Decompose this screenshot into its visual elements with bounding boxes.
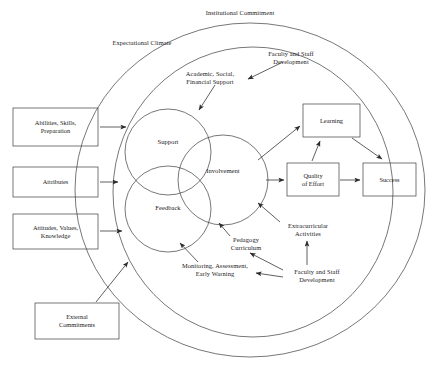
arrow-academic-support-to-support-circle bbox=[199, 85, 215, 110]
annotation-faculty-dev-bottom: Faculty and Staff Development bbox=[274, 268, 360, 283]
arrow-learning-to-success bbox=[352, 138, 382, 159]
venn-label-support: Support bbox=[138, 138, 198, 145]
outer-ring-label: Institutional Commitment bbox=[180, 9, 300, 17]
venn-label-feedback: Feedback bbox=[138, 204, 198, 211]
box-label-attitudes: Attitudes, Values, Knowledge bbox=[13, 214, 98, 249]
arrow-external-to-climate bbox=[96, 262, 128, 302]
annotation-pedagogy: Pedagogy Curriculum bbox=[213, 236, 279, 251]
annotation-academic-support: Academic, Social, Financial Support bbox=[164, 70, 256, 85]
venn-label-involvement: Involvement bbox=[193, 167, 253, 174]
inner-ring-label: Expectational Climate bbox=[92, 39, 192, 47]
box-label-attributes: Attributes bbox=[13, 167, 98, 197]
box-label-learning: Learning bbox=[303, 104, 360, 137]
venn-circle-involvement bbox=[178, 135, 268, 225]
annotation-monitoring: Monitoring, Assessment, Early Warning bbox=[160, 262, 270, 277]
venn-circle-support bbox=[125, 109, 211, 195]
arrow-involvement-to-learning bbox=[258, 126, 300, 160]
box-label-abilities: Abilities, Skills, Preparation bbox=[13, 108, 98, 146]
arrow-quality-of-effort-to-learning bbox=[312, 141, 320, 161]
annotation-extracurricular: Extracurricular Activities bbox=[272, 222, 344, 237]
box-label-external-commitments: External Commitments bbox=[35, 303, 119, 339]
arrow-monitoring-to-feedback bbox=[180, 243, 198, 262]
box-label-quality-of-effort: Quality of Effort bbox=[287, 163, 339, 196]
diagram-canvas: Institutional Commitment Expectational C… bbox=[0, 0, 439, 366]
box-label-success: Success bbox=[363, 163, 416, 196]
arrow-extracurricular-to-involvement bbox=[258, 203, 280, 222]
inner-ring-expectational-climate bbox=[113, 47, 393, 337]
annotation-faculty-dev-top: Faculty and Staff Development bbox=[248, 50, 334, 65]
